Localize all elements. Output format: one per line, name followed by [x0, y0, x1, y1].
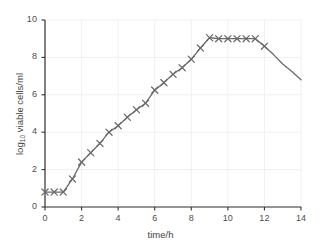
x-tick-label: 10 — [218, 213, 238, 223]
x-tick-label: 4 — [108, 213, 128, 223]
y-axis-title-rest: viable cells/ml — [14, 73, 25, 135]
data-series-line — [45, 38, 301, 192]
y-axis-title-subscript: 10 — [19, 135, 26, 143]
y-axis-title: log10 viable cells/ml — [14, 73, 25, 155]
x-tick-label: 14 — [291, 213, 311, 223]
y-axis-title-main: log — [14, 142, 25, 155]
plot-canvas — [0, 0, 321, 247]
x-axis-title: time/h — [0, 229, 321, 240]
x-tick-label: 2 — [72, 213, 92, 223]
x-tick-label: 6 — [145, 213, 165, 223]
x-tick-label: 0 — [35, 213, 55, 223]
growth-curve-figure: 0246810 02468101214 time/h log10 viable … — [0, 0, 321, 247]
x-tick-label: 8 — [181, 213, 201, 223]
y-axis-title-wrapper: log10 viable cells/ml — [9, 19, 27, 209]
x-tick-label: 12 — [254, 213, 274, 223]
